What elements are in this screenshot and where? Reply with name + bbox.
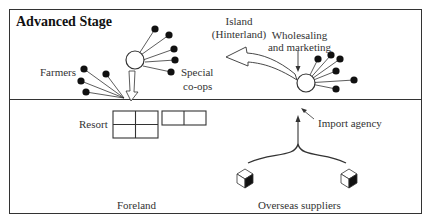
- dot-icon: [314, 55, 321, 62]
- down-arrow-icon: [296, 66, 301, 72]
- dot-icon: [77, 77, 84, 84]
- dot-icon: [165, 31, 172, 38]
- dot-icon: [336, 55, 343, 62]
- label-foreland: Foreland: [117, 199, 156, 211]
- label-farmers: Farmers: [40, 66, 76, 78]
- dot-icon: [332, 85, 339, 92]
- dot-icon: [350, 76, 357, 83]
- up-arrow-icon: [296, 115, 301, 122]
- dot-icon: [102, 70, 109, 77]
- hollow-down-arrow-icon: [126, 71, 138, 101]
- island-hub: [126, 25, 179, 75]
- island-node-icon: [126, 51, 144, 69]
- cube-icon: [341, 169, 357, 188]
- dot-icon: [170, 45, 177, 52]
- label-special: Special: [181, 66, 213, 78]
- label-wholesaling: Wholesaling: [262, 29, 337, 41]
- cube-icon: [237, 169, 253, 188]
- dot-icon: [80, 65, 87, 72]
- dot-icon: [167, 68, 174, 75]
- label-overseas-suppliers: Overseas suppliers: [258, 199, 341, 211]
- label-import-agency: Import agency: [318, 117, 382, 129]
- wholesale-hub: [297, 51, 358, 92]
- dot-icon: [332, 67, 339, 74]
- label-and-marketing: and marketing: [257, 41, 342, 53]
- label-island: Island: [214, 15, 264, 27]
- dot-icon: [171, 56, 178, 63]
- dot-icon: [82, 88, 89, 95]
- wholesale-node-icon: [297, 74, 315, 92]
- dot-icon: [151, 25, 158, 32]
- label-resort: Resort: [79, 118, 108, 130]
- label-coops: co-ops: [183, 80, 212, 92]
- farmers-group: [77, 65, 124, 98]
- resort-grid-icon: [113, 111, 206, 138]
